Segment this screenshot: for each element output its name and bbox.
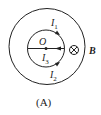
arrow-i1-icon <box>55 31 60 36</box>
center-point <box>45 47 48 50</box>
center-label: O <box>39 37 46 47</box>
current-label-i3: I3 <box>42 53 49 66</box>
figure-caption: (A) <box>36 97 51 108</box>
current-label-i2: I2 <box>50 70 57 83</box>
arrow-i2-icon <box>55 62 60 67</box>
field-into-page-icon <box>70 46 79 55</box>
arrow-i3-icon <box>55 47 61 51</box>
current-label-i1: I1 <box>51 18 58 31</box>
outer-loop <box>9 9 85 85</box>
field-label: B <box>89 46 96 56</box>
